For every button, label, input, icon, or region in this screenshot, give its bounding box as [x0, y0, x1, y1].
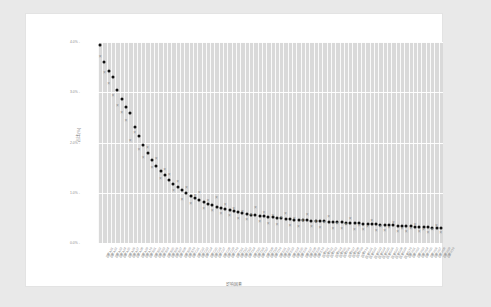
data-point-x: ×: [310, 224, 313, 229]
data-point-x: ×: [276, 221, 279, 226]
data-point-x: ×: [375, 227, 378, 232]
data-point-dot: [310, 219, 313, 222]
data-point-x: ×: [159, 175, 162, 180]
data-point-dot: [275, 216, 278, 219]
data-point-dot: [254, 214, 257, 217]
grid-line-horizontal: [98, 143, 443, 144]
data-point-x: ×: [314, 218, 317, 223]
data-point-dot: [224, 208, 227, 211]
data-point-x: ×: [228, 213, 231, 218]
data-point-dot: [327, 220, 330, 223]
data-point-dot: [159, 169, 162, 172]
data-point-x: ×: [345, 221, 348, 226]
data-point-x: ×: [327, 213, 330, 218]
data-point-dot: [340, 221, 343, 224]
chart-screenshot: ××××××××××××××××××××××××××××××××××××××××…: [0, 0, 491, 307]
data-point-x: ×: [181, 196, 184, 201]
data-point-dot: [112, 76, 115, 79]
data-point-dot: [206, 202, 209, 205]
data-point-dot: [284, 217, 287, 220]
data-point-x: ×: [142, 154, 145, 159]
data-point-dot: [103, 61, 106, 64]
data-point-x: ×: [202, 205, 205, 210]
data-point-x: ×: [219, 210, 222, 215]
data-point-dot: [129, 112, 132, 115]
x-axis-title: 影响因素: [26, 282, 442, 287]
data-point-x: ×: [129, 137, 132, 142]
data-point-dot: [198, 199, 201, 202]
chart-card: ××××××××××××××××××××××××××××××××××××××××…: [26, 14, 442, 286]
y-axis-tick-label: 0.0% -: [70, 241, 80, 245]
data-point-x: ×: [418, 229, 421, 234]
data-point-x: ×: [306, 211, 309, 216]
data-point-dot: [349, 221, 352, 224]
data-point-x: ×: [172, 188, 175, 193]
data-point-dot: [176, 186, 179, 189]
data-point-x: ×: [232, 205, 235, 210]
data-point-x: ×: [146, 144, 149, 149]
data-point-x: ×: [349, 215, 352, 220]
data-point-x: ×: [224, 201, 227, 206]
data-point-x: ×: [263, 209, 266, 214]
y-axis-tick-label: 1.0% -: [70, 191, 80, 195]
data-point-x: ×: [319, 225, 322, 230]
data-point-dot: [332, 220, 335, 223]
data-point-x: ×: [401, 225, 404, 230]
data-point-x: ×: [125, 118, 128, 123]
data-point-x: ×: [396, 228, 399, 233]
data-point-dot: [146, 151, 149, 154]
data-point-x: ×: [138, 146, 141, 151]
data-point-dot: [137, 135, 140, 138]
data-point-x: ×: [194, 192, 197, 197]
data-point-x: ×: [258, 218, 261, 223]
data-point-x: ×: [353, 226, 356, 231]
data-point-dot: [370, 223, 373, 226]
data-point-x: ×: [409, 226, 412, 231]
data-point-dot: [99, 43, 102, 46]
data-point-x: ×: [288, 222, 291, 227]
y-axis-tick-label: 4.0% -: [70, 40, 80, 44]
data-point-x: ×: [336, 220, 339, 225]
data-point-dot: [267, 215, 270, 218]
data-point-dot: [172, 182, 175, 185]
data-point-x: ×: [332, 225, 335, 230]
data-point-x: ×: [189, 200, 192, 205]
data-point-dot: [297, 218, 300, 221]
data-point-x: ×: [366, 223, 369, 228]
data-point-x: ×: [439, 229, 442, 234]
data-point-x: ×: [297, 223, 300, 228]
data-point-dot: [107, 70, 110, 73]
data-point-x: ×: [211, 207, 214, 212]
data-point-x: ×: [431, 227, 434, 232]
data-point-x: ×: [116, 103, 119, 108]
data-point-dot: [163, 174, 166, 177]
data-point-x: ×: [284, 210, 287, 215]
data-point-x: ×: [414, 221, 417, 226]
data-point-x: ×: [99, 54, 102, 59]
data-point-x: ×: [340, 226, 343, 231]
data-point-x: ×: [250, 211, 253, 216]
y-axis-title: 占比(%): [76, 128, 81, 142]
data-point-x: ×: [237, 215, 240, 220]
data-point-dot: [168, 178, 171, 181]
data-point-x: ×: [388, 225, 391, 230]
data-point-x: ×: [392, 219, 395, 224]
data-point-x: ×: [207, 197, 210, 202]
data-point-x: ×: [133, 130, 136, 135]
data-point-x: ×: [362, 227, 365, 232]
data-point-x: ×: [215, 194, 218, 199]
data-point-x: ×: [168, 171, 171, 176]
data-point-x: ×: [176, 178, 179, 183]
grid-line-horizontal: [98, 193, 443, 194]
grid-line-horizontal: [98, 92, 443, 93]
plot-area: ××××××××××××××××××××××××××××××××××××××××…: [98, 42, 443, 243]
data-point-dot: [319, 220, 322, 223]
data-point-x: ×: [280, 214, 283, 219]
data-point-dot: [150, 158, 153, 161]
data-point-x: ×: [198, 189, 201, 194]
data-point-x: ×: [379, 224, 382, 229]
data-point-dot: [189, 194, 192, 197]
data-point-dot: [120, 98, 123, 101]
data-point-x: ×: [271, 212, 274, 217]
data-point-dot: [155, 164, 158, 167]
